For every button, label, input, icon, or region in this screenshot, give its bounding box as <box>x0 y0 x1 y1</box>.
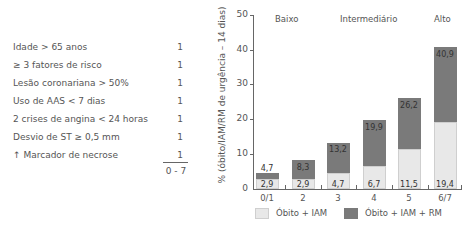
sum-divider <box>163 162 188 163</box>
risk-row: ↑ Marcador de necrose1 <box>13 147 193 163</box>
x-tick-label: 2 <box>288 193 318 203</box>
group-label-intermediario: Intermediário <box>340 14 397 24</box>
bar-value-label: 6,7 <box>354 180 394 189</box>
risk-row: 2 crises de angina < 24 horas1 <box>13 111 193 127</box>
group-label-alto: Alto <box>434 14 451 24</box>
risk-label: ≥ 3 fatores de risco <box>13 57 102 73</box>
risk-value: 1 <box>175 57 185 73</box>
bar-value-label: 4,7 <box>247 164 287 173</box>
y-tick-label: 50 <box>228 9 248 19</box>
x-tick-label: 5 <box>394 193 424 203</box>
risk-value: 1 <box>175 111 185 127</box>
risk-value: 1 <box>175 75 185 91</box>
legend-label: Óbito + IAM <box>276 208 327 218</box>
legend-swatch-obito-iam <box>255 208 269 219</box>
risk-label: Desvio de ST ≥ 0,5 mm <box>13 129 120 145</box>
risk-label: ↑ Marcador de necrose <box>13 147 118 163</box>
bar-value-label: 4,7 <box>318 180 358 189</box>
y-tick <box>250 15 254 16</box>
risk-row: Lesão coronariana > 50%1 <box>13 75 193 91</box>
legend-label: Óbito + IAM + RM <box>365 208 442 218</box>
group-label-baixo: Baixo <box>275 14 298 24</box>
risk-value: 1 <box>175 129 185 145</box>
bar-value-label: 8,3 <box>283 163 323 172</box>
legend-swatch-obito-iam-rm <box>344 208 358 219</box>
risk-label: 2 crises de angina < 24 horas <box>13 111 148 127</box>
y-tick-label: 20 <box>228 113 248 123</box>
y-tick <box>250 50 254 51</box>
y-tick <box>250 84 254 85</box>
risk-row: ≥ 3 fatores de risco1 <box>13 57 193 73</box>
y-axis <box>253 15 254 189</box>
y-tick-label: 40 <box>228 44 248 54</box>
bar-value-label: 13,2 <box>318 145 358 154</box>
risk-row: Desvio de ST ≥ 0,5 mm1 <box>13 129 193 145</box>
bar-value-label: 19,4 <box>425 180 465 189</box>
score-total: 0 - 7 <box>160 166 192 176</box>
x-tick-label: 3 <box>323 193 353 203</box>
bar-value-label: 2,9 <box>283 180 323 189</box>
x-tick-label: 0/1 <box>252 193 282 203</box>
y-axis-label: % (óbito/IAM/RM de urgência – 14 dias) <box>217 7 227 184</box>
risk-label: Lesão coronariana > 50% <box>13 75 129 91</box>
bar-value-label: 19,9 <box>354 123 394 132</box>
bar-value-label: 40,9 <box>425 50 465 59</box>
risk-row: Uso de AAS < 7 dias1 <box>13 93 193 109</box>
bar-5 <box>398 98 421 189</box>
bar-6-7 <box>434 47 457 189</box>
risk-value: 1 <box>175 147 185 163</box>
risk-row: Idade > 65 anos1 <box>13 39 193 55</box>
x-tick-label: 4 <box>359 193 389 203</box>
bar-value-label: 26,2 <box>389 101 429 110</box>
y-tick-label: 30 <box>228 78 248 88</box>
risk-label: Idade > 65 anos <box>13 39 87 55</box>
risk-label: Uso de AAS < 7 dias <box>13 93 105 109</box>
risk-value: 1 <box>175 39 185 55</box>
bar-segment-obito-iam <box>434 122 457 189</box>
risk-value: 1 <box>175 93 185 109</box>
bar-value-label: 11,5 <box>389 180 429 189</box>
x-tick-label: 6/7 <box>430 193 460 203</box>
y-tick <box>250 154 254 155</box>
y-tick-label: 0 <box>228 183 248 193</box>
bar-value-label: 2,9 <box>247 180 287 189</box>
y-tick <box>250 119 254 120</box>
y-tick-label: 10 <box>228 148 248 158</box>
